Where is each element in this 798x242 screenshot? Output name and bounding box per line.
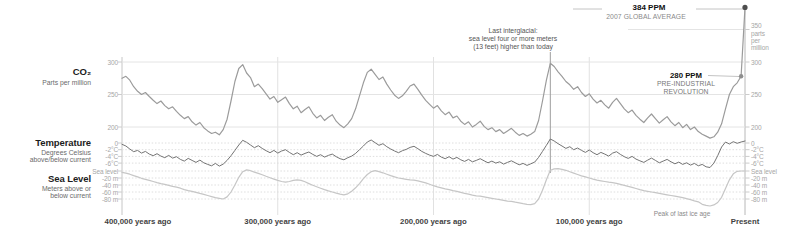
preindustrial-co2-annotation: 280 PPM [646,71,726,80]
co2-series-subtitle: Parts per million [8,79,91,86]
sea-tick-neg20-left: -20 m [74,175,118,182]
peak-of-last-ice-age-label: Peak of last ice age [622,210,742,217]
x-axis-label-100k: 100,000 years ago [509,218,669,226]
sea-tick-neg40-left: -40 m [74,182,118,189]
last-interglacial-annotation-line1: Last interglacial: [433,27,593,35]
preindustrial-co2-annotation-sub2: REVOLUTION [646,88,726,96]
last-interglacial-annotation-line2: sea level four or more meters [433,35,593,43]
co2-tick-250-right: 250 [751,91,797,98]
co2-tick-300-left: 300 [74,59,118,66]
co2-tick-200-right: 200 [751,124,797,131]
co2-tick-200-left: 200 [74,124,118,131]
temp-tick-neg6-left: -6°C [74,160,118,167]
climate-history-chart: CO₂ Parts per million Temperature Degree… [0,0,798,242]
co2-tick-300-right: 300 [751,59,797,66]
co2-tick-350-right: 350 [751,22,797,29]
sea-tick-neg60-left: -60 m [74,189,118,196]
sea-tick-neg20-right: -20 m [751,175,797,182]
sea-tick-neg40-right: -40 m [751,182,797,189]
co2-unit-parts: parts [751,30,797,37]
chart-canvas [0,0,798,242]
x-axis-label-400k: 400,000 years ago [58,218,218,226]
sea-tick-neg60-right: -60 m [751,189,797,196]
co2-series-title: CO₂ [8,67,91,77]
x-axis-label-present: Present [705,218,785,226]
sea-tick-neg80-left: -80 m [74,196,118,203]
sea-tick-neg80-right: -80 m [751,196,797,203]
last-interglacial-annotation-line3: (13 feet) higher than today [433,43,593,51]
modern-co2-annotation-sub: 2007 GLOBAL AVERAGE [586,13,706,21]
temp-tick-neg6-right: -6°C [751,160,797,167]
x-axis-label-200k: 200,000 years ago [354,218,514,226]
x-axis-label-300k: 300,000 years ago [198,218,358,226]
co2-tick-250-left: 250 [74,91,118,98]
modern-co2-annotation: 384 PPM [602,3,696,12]
sea-tick-0-left: Sea level [74,168,118,175]
preindustrial-co2-annotation-sub1: PRE-INDUSTRIAL [646,80,726,88]
co2-unit-per: per [751,37,797,44]
co2-unit-million: million [751,44,797,51]
sea-tick-0-right: Sea level [751,168,797,175]
